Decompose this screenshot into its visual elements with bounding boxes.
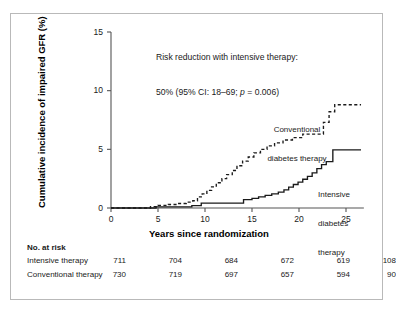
y-tick-label: 10 <box>83 85 103 95</box>
x-tick-label: 20 <box>289 214 309 224</box>
intensive-label-line-1: Intensive <box>318 190 374 200</box>
risk-value: 711 <box>104 256 126 265</box>
risk-value: 90 <box>374 270 396 279</box>
x-tick-label: 5 <box>148 214 168 224</box>
risk-value: 684 <box>216 256 238 265</box>
risk-value: 619 <box>328 256 350 265</box>
x-axis-title: Years since randomization <box>149 228 269 239</box>
risk-reduction-annotation: Risk reduction with intensive therapy: 5… <box>156 29 298 110</box>
risk-value: 697 <box>216 270 238 279</box>
annotation-line-1: Risk reduction with intensive therapy: <box>156 52 298 64</box>
risk-value: 730 <box>104 270 126 279</box>
annotation-ci-text: 50% (95% CI: 18–69; <box>156 87 240 97</box>
risk-row-label: Intensive therapy <box>27 256 79 266</box>
conventional-label-line-2: diabetes therapy <box>259 154 335 164</box>
risk-value: 704 <box>160 256 182 265</box>
risk-value: 594 <box>328 270 350 279</box>
x-tick-label: 25 <box>336 214 356 224</box>
conventional-curve-label: Conventional diabetes therapy <box>259 106 335 173</box>
y-axis-title: Cumulative incidence of impaired GFR (%) <box>36 16 47 208</box>
x-tick-label: 10 <box>195 214 215 224</box>
risk-value: 719 <box>160 270 182 279</box>
risk-value: 672 <box>272 256 294 265</box>
annotation-line-2: 50% (95% CI: 18–69; p = 0.006) <box>156 87 298 99</box>
risk-row-label: Conventional therapy <box>27 270 79 280</box>
annotation-p-value: = 0.006) <box>245 87 279 97</box>
risk-table-heading: No. at risk <box>27 243 66 252</box>
conventional-label-line-1: Conventional <box>259 125 335 135</box>
x-tick-label: 0 <box>101 214 121 224</box>
risk-value: 657 <box>272 270 294 279</box>
y-tick-label: 5 <box>83 144 103 154</box>
risk-value: 108 <box>374 256 396 265</box>
y-tick-label: 15 <box>83 27 103 37</box>
y-tick-label: 0 <box>83 203 103 213</box>
x-tick-label: 15 <box>242 214 262 224</box>
